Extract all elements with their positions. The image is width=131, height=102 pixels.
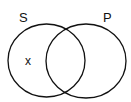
mark-x: x <box>25 54 31 68</box>
label-s: S <box>19 10 28 25</box>
label-p: P <box>103 10 112 25</box>
circle-p <box>46 24 126 98</box>
venn-diagram: S P x <box>0 0 131 102</box>
